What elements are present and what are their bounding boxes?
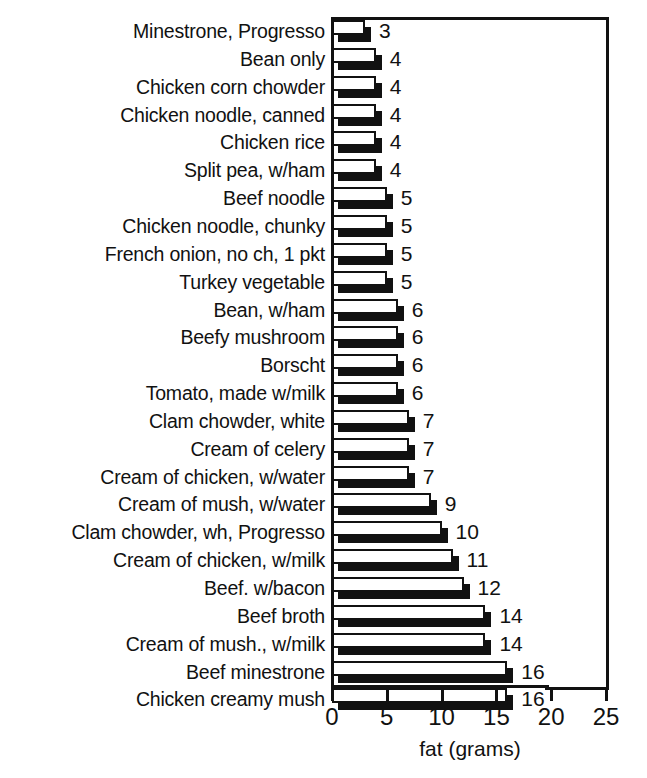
bar-row: Turkey vegetable5 <box>0 271 647 299</box>
bar-row: Chicken rice4 <box>0 131 647 159</box>
bar-value-label: 10 <box>456 520 479 544</box>
bar-category-label: Bean only <box>240 48 325 70</box>
bar-row: Beefy mushroom6 <box>0 326 647 354</box>
bar-category-label: Cream of mush., w/milk <box>126 633 325 655</box>
bar-row: Borscht6 <box>0 354 647 382</box>
bar-category-label: Clam chowder, wh, Progresso <box>71 521 325 543</box>
bar-value-label: 11 <box>467 548 489 572</box>
bar-face <box>332 688 507 703</box>
bar-category-label: Chicken creamy mush <box>136 688 325 710</box>
bar-value-label: 4 <box>390 75 402 99</box>
bar-face <box>332 633 485 648</box>
bar-value-label: 7 <box>423 465 435 489</box>
bar-value-label: 4 <box>390 130 402 154</box>
x-axis-tick <box>441 688 444 701</box>
bar-category-label: French onion, no ch, 1 pkt <box>105 243 325 265</box>
bar-value-label: 4 <box>390 103 402 127</box>
bar-value-label: 3 <box>379 19 391 43</box>
bar-row: Tomato, made w/milk6 <box>0 382 647 410</box>
bar-row: Bean, w/ham6 <box>0 299 647 327</box>
bar-face <box>332 326 398 341</box>
bar-row: Chicken noodle, canned4 <box>0 104 647 132</box>
bar-category-label: Clam chowder, white <box>149 410 325 432</box>
bar-face <box>332 521 442 536</box>
bar-category-label: Chicken rice <box>220 131 325 153</box>
x-axis-title: fat (grams) <box>331 737 609 761</box>
bar-value-label: 12 <box>478 576 501 600</box>
x-axis-tick <box>550 688 553 701</box>
bar-row: Beef minestrone16 <box>0 661 647 689</box>
x-axis-tick-label: 10 <box>412 703 472 731</box>
bar-face <box>332 243 387 258</box>
bar-face <box>332 48 376 63</box>
bar-category-label: Tomato, made w/milk <box>146 382 325 404</box>
bar-category-label: Beef minestrone <box>186 661 325 683</box>
bar-face <box>332 549 453 564</box>
bar-value-label: 4 <box>390 47 402 71</box>
bar-face <box>332 466 409 481</box>
bar-category-label: Cream of celery <box>190 438 325 460</box>
bar-category-label: Minestrone, Progresso <box>133 20 325 42</box>
bar-value-label: 14 <box>499 604 522 628</box>
bar-row: Cream of mush., w/milk14 <box>0 633 647 661</box>
x-axis-tick <box>495 688 498 701</box>
bar-face <box>332 187 387 202</box>
bar-category-label: Turkey vegetable <box>179 271 325 293</box>
bar-value-label: 4 <box>390 158 402 182</box>
bar-row: Beef. w/bacon12 <box>0 577 647 605</box>
bar-face <box>332 661 507 676</box>
bar-face <box>332 299 398 314</box>
bar-row: Chicken corn chowder4 <box>0 76 647 104</box>
bar-row: Split pea, w/ham4 <box>0 159 647 187</box>
bar-category-label: Bean, w/ham <box>213 299 325 321</box>
bar-row: Cream of chicken, w/milk11 <box>0 549 647 577</box>
bar-value-label: 5 <box>401 214 413 238</box>
bar-value-label: 6 <box>412 381 424 405</box>
bar-face <box>332 104 376 119</box>
bar-face <box>332 159 376 174</box>
bar-category-label: Split pea, w/ham <box>184 159 325 181</box>
bar-face <box>332 605 485 620</box>
bar-face <box>332 76 376 91</box>
bar-row: Clam chowder, white7 <box>0 410 647 438</box>
bar-row: Cream of mush, w/water9 <box>0 493 647 521</box>
bar-category-label: Beef. w/bacon <box>204 577 325 599</box>
bar-value-label: 6 <box>412 353 424 377</box>
bar-value-label: 7 <box>423 437 435 461</box>
bar-value-label: 6 <box>412 298 424 322</box>
bar-category-label: Cream of chicken, w/milk <box>113 549 325 571</box>
bar-row: Cream of chicken, w/water7 <box>0 466 647 494</box>
bar-category-label: Beefy mushroom <box>180 326 325 348</box>
bar-category-label: Borscht <box>260 354 325 376</box>
x-axis-tick <box>386 688 389 701</box>
bar-row: Minestrone, Progresso3 <box>0 20 647 48</box>
bar-face <box>332 493 431 508</box>
bar-face <box>332 131 376 146</box>
bar-category-label: Chicken noodle, chunky <box>122 215 325 237</box>
bar-category-label: Cream of mush, w/water <box>118 493 325 515</box>
bar-category-label: Cream of chicken, w/water <box>100 466 325 488</box>
bar-face <box>332 410 409 425</box>
bar-face <box>332 577 464 592</box>
bar-row: Clam chowder, wh, Progresso10 <box>0 521 647 549</box>
bar-row: Beef broth14 <box>0 605 647 633</box>
bar-value-label: 5 <box>401 242 413 266</box>
bar-row: French onion, no ch, 1 pkt5 <box>0 243 647 271</box>
bar-value-label: 7 <box>423 409 435 433</box>
bar-value-label: 9 <box>445 492 457 516</box>
bar-category-label: Chicken noodle, canned <box>120 104 325 126</box>
bar-value-label: 6 <box>412 325 424 349</box>
bar-face <box>332 354 398 369</box>
bar-face <box>332 20 365 35</box>
fat-grams-bar-chart: Minestrone, Progresso3Bean only4Chicken … <box>0 0 647 778</box>
bar-row: Cream of celery7 <box>0 438 647 466</box>
bar-row: Chicken noodle, chunky5 <box>0 215 647 243</box>
bar-face <box>332 271 387 286</box>
x-axis-tick-label: 5 <box>357 703 417 731</box>
x-axis-tick <box>605 688 608 701</box>
bar-face <box>332 438 409 453</box>
bar-row: Bean only4 <box>0 48 647 76</box>
bar-value-label: 14 <box>499 632 522 656</box>
bar-category-label: Chicken corn chowder <box>136 76 325 98</box>
bar-value-label: 5 <box>401 270 413 294</box>
